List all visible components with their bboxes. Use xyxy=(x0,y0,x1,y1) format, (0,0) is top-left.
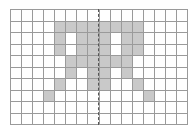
grid-cell-r7-c6[interactable] xyxy=(77,91,88,103)
grid-cell-r3-c4[interactable] xyxy=(55,45,66,57)
grid-cell-r2-c14[interactable] xyxy=(166,33,177,45)
grid-cell-r1-c5[interactable] xyxy=(66,22,77,34)
grid-cell-r4-c15[interactable] xyxy=(177,56,188,68)
grid-cell-r7-c4[interactable] xyxy=(55,91,66,103)
grid-cell-r9-c6[interactable] xyxy=(77,114,88,126)
grid-cell-r4-c0[interactable] xyxy=(11,56,22,68)
grid-cell-r4-c8[interactable] xyxy=(100,56,111,68)
grid-cell-r2-c1[interactable] xyxy=(22,33,33,45)
grid-cell-r7-c3[interactable] xyxy=(44,91,55,103)
grid-cell-r6-c8[interactable] xyxy=(100,79,111,91)
grid-cell-r3-c2[interactable] xyxy=(33,45,44,57)
grid-cell-r4-c13[interactable] xyxy=(155,56,166,68)
grid-cell-r3-c8[interactable] xyxy=(100,45,111,57)
grid-cell-r8-c6[interactable] xyxy=(77,102,88,114)
grid-cell-r3-c10[interactable] xyxy=(122,45,133,57)
grid-cell-r6-c13[interactable] xyxy=(155,79,166,91)
grid-cell-r8-c8[interactable] xyxy=(100,102,111,114)
grid-cell-r3-c3[interactable] xyxy=(44,45,55,57)
grid-cell-r6-c0[interactable] xyxy=(11,79,22,91)
grid-cell-r3-c7[interactable] xyxy=(88,45,99,57)
grid-cell-r7-c7[interactable] xyxy=(88,91,99,103)
grid-cell-r1-c0[interactable] xyxy=(11,22,22,34)
grid-cell-r4-c7[interactable] xyxy=(88,56,99,68)
grid-cell-r0-c10[interactable] xyxy=(122,10,133,22)
grid-cell-r1-c11[interactable] xyxy=(133,22,144,34)
grid-cell-r0-c15[interactable] xyxy=(177,10,188,22)
grid-cell-r6-c11[interactable] xyxy=(133,79,144,91)
grid-cell-r2-c8[interactable] xyxy=(100,33,111,45)
grid-cell-r8-c13[interactable] xyxy=(155,102,166,114)
grid-cell-r4-c1[interactable] xyxy=(22,56,33,68)
grid-cell-r9-c11[interactable] xyxy=(133,114,144,126)
grid-cell-r3-c14[interactable] xyxy=(166,45,177,57)
grid-cell-r8-c9[interactable] xyxy=(111,102,122,114)
grid-cell-r5-c5[interactable] xyxy=(66,68,77,80)
grid-cell-r9-c13[interactable] xyxy=(155,114,166,126)
grid-cell-r2-c5[interactable] xyxy=(66,33,77,45)
grid-cell-r9-c10[interactable] xyxy=(122,114,133,126)
grid-cell-r3-c12[interactable] xyxy=(144,45,155,57)
grid-cell-r2-c7[interactable] xyxy=(88,33,99,45)
grid-cell-r3-c15[interactable] xyxy=(177,45,188,57)
grid-cell-r5-c4[interactable] xyxy=(55,68,66,80)
grid-cell-r8-c0[interactable] xyxy=(11,102,22,114)
grid-cell-r2-c2[interactable] xyxy=(33,33,44,45)
grid-cell-r8-c11[interactable] xyxy=(133,102,144,114)
grid-cell-r5-c13[interactable] xyxy=(155,68,166,80)
grid-cell-r1-c10[interactable] xyxy=(122,22,133,34)
grid-cell-r0-c12[interactable] xyxy=(144,10,155,22)
grid-cell-r9-c0[interactable] xyxy=(11,114,22,126)
grid-cell-r8-c1[interactable] xyxy=(22,102,33,114)
grid-cell-r7-c10[interactable] xyxy=(122,91,133,103)
grid-cell-r4-c11[interactable] xyxy=(133,56,144,68)
grid-cell-r8-c15[interactable] xyxy=(177,102,188,114)
grid-cell-r1-c15[interactable] xyxy=(177,22,188,34)
grid-cell-r9-c9[interactable] xyxy=(111,114,122,126)
grid-cell-r6-c15[interactable] xyxy=(177,79,188,91)
grid-cell-r9-c12[interactable] xyxy=(144,114,155,126)
grid-cell-r0-c11[interactable] xyxy=(133,10,144,22)
grid-cell-r3-c9[interactable] xyxy=(111,45,122,57)
grid-cell-r1-c9[interactable] xyxy=(111,22,122,34)
grid-cell-r0-c13[interactable] xyxy=(155,10,166,22)
grid-cell-r9-c7[interactable] xyxy=(88,114,99,126)
grid-cell-r1-c4[interactable] xyxy=(55,22,66,34)
grid-cell-r3-c11[interactable] xyxy=(133,45,144,57)
grid-cell-r0-c1[interactable] xyxy=(22,10,33,22)
grid-cell-r5-c7[interactable] xyxy=(88,68,99,80)
grid-cell-r6-c5[interactable] xyxy=(66,79,77,91)
grid-cell-r0-c4[interactable] xyxy=(55,10,66,22)
grid-cell-r7-c15[interactable] xyxy=(177,91,188,103)
grid-cell-r9-c3[interactable] xyxy=(44,114,55,126)
grid-cell-r8-c5[interactable] xyxy=(66,102,77,114)
grid-cell-r2-c13[interactable] xyxy=(155,33,166,45)
grid-cell-r0-c7[interactable] xyxy=(88,10,99,22)
grid-cell-r0-c9[interactable] xyxy=(111,10,122,22)
grid-cell-r4-c2[interactable] xyxy=(33,56,44,68)
grid-cell-r5-c9[interactable] xyxy=(111,68,122,80)
grid-cell-r4-c14[interactable] xyxy=(166,56,177,68)
grid-cell-r6-c1[interactable] xyxy=(22,79,33,91)
grid-cell-r6-c10[interactable] xyxy=(122,79,133,91)
grid-cell-r9-c14[interactable] xyxy=(166,114,177,126)
grid-cell-r5-c0[interactable] xyxy=(11,68,22,80)
grid-cell-r9-c8[interactable] xyxy=(100,114,111,126)
grid-cell-r9-c5[interactable] xyxy=(66,114,77,126)
grid-cell-r5-c11[interactable] xyxy=(133,68,144,80)
grid-cell-r2-c12[interactable] xyxy=(144,33,155,45)
grid-cell-r2-c11[interactable] xyxy=(133,33,144,45)
grid-cell-r2-c4[interactable] xyxy=(55,33,66,45)
grid-cell-r4-c4[interactable] xyxy=(55,56,66,68)
grid-cell-r6-c9[interactable] xyxy=(111,79,122,91)
grid-cell-r7-c8[interactable] xyxy=(100,91,111,103)
grid-cell-r5-c2[interactable] xyxy=(33,68,44,80)
grid-cell-r7-c13[interactable] xyxy=(155,91,166,103)
grid-cell-r1-c8[interactable] xyxy=(100,22,111,34)
grid-cell-r8-c7[interactable] xyxy=(88,102,99,114)
grid-cell-r0-c2[interactable] xyxy=(33,10,44,22)
grid-cell-r2-c9[interactable] xyxy=(111,33,122,45)
grid-cell-r5-c3[interactable] xyxy=(44,68,55,80)
grid-cell-r5-c14[interactable] xyxy=(166,68,177,80)
grid-cell-r0-c14[interactable] xyxy=(166,10,177,22)
